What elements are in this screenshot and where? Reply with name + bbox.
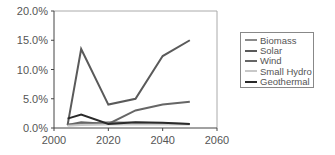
legend-item: Solar	[245, 45, 309, 55]
legend-swatch	[245, 70, 257, 72]
y-tick-label: 20.0%	[17, 5, 48, 17]
series-line-small-hydro	[68, 124, 190, 125]
legend-swatch	[245, 39, 257, 41]
y-tick-label: 10.0%	[17, 64, 48, 76]
legend-label: Solar	[260, 45, 282, 56]
legend-swatch	[245, 60, 257, 62]
legend-label: Biomass	[260, 35, 296, 46]
legend-item: Wind	[245, 56, 309, 66]
x-tick-label: 2040	[150, 134, 174, 146]
chart-legend: BiomassSolarWindSmall HydroGeothermal	[240, 32, 314, 88]
y-tick-label: 5.0%	[23, 93, 48, 105]
x-tick-label: 2060	[205, 134, 229, 146]
legend-label: Small Hydro	[260, 66, 312, 77]
series-line-solar	[68, 40, 190, 125]
legend-swatch	[245, 81, 257, 83]
legend-label: Geothermal	[260, 76, 310, 87]
legend-item: Biomass	[245, 35, 309, 45]
x-tick-label: 2000	[42, 134, 66, 146]
legend-swatch	[245, 50, 257, 52]
x-tick-label: 2020	[96, 134, 120, 146]
legend-label: Wind	[260, 55, 282, 66]
legend-item: Geothermal	[245, 77, 309, 87]
legend-item: Small Hydro	[245, 66, 309, 76]
y-tick-label: 0.0%	[23, 122, 48, 134]
series-line-wind	[68, 102, 190, 125]
y-tick-label: 15.0%	[17, 34, 48, 46]
